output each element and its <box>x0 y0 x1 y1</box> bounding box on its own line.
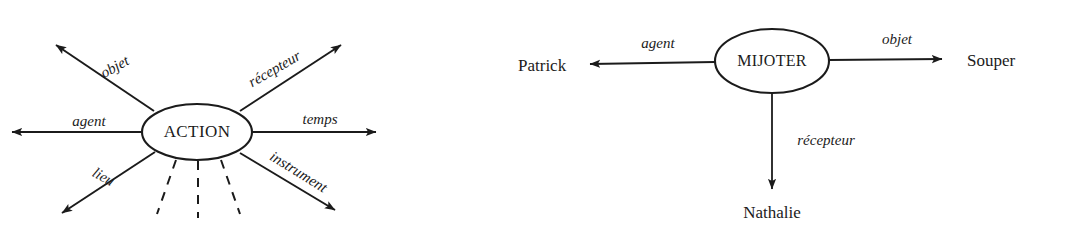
node-action-label: ACTION <box>164 122 231 141</box>
role-label-mijoter-recepteur: récepteur <box>797 132 855 148</box>
node-patrick[interactable]: Patrick <box>518 56 567 75</box>
diagram-mijoter-instance: MIJOTER agent objet récepteur Patrick So… <box>518 29 1016 222</box>
role-label-agent: agent <box>72 113 106 129</box>
role-label-objet: objet <box>98 52 133 81</box>
edge-mijoter-agent <box>590 62 715 64</box>
role-label-mijoter-agent: agent <box>641 35 675 51</box>
role-label-recepteur: récepteur <box>246 47 304 90</box>
node-nathalie[interactable]: Nathalie <box>743 203 801 222</box>
edge-mijoter-objet <box>829 59 942 60</box>
diagram-generic-action-frame: ACTION objet récepteur agent temps lieu … <box>12 45 376 218</box>
role-label-mijoter-objet: objet <box>882 31 913 47</box>
role-label-lieu: lieu <box>90 164 117 189</box>
role-label-temps: temps <box>303 111 338 127</box>
dashed-slot-left <box>157 160 176 214</box>
node-souper[interactable]: Souper <box>967 51 1016 70</box>
case-frame-figure: ACTION objet récepteur agent temps lieu … <box>0 0 1078 251</box>
dashed-slot-right <box>221 160 240 214</box>
node-mijoter-label: MIJOTER <box>737 52 807 69</box>
figure-canvas: ACTION objet récepteur agent temps lieu … <box>0 0 1078 251</box>
